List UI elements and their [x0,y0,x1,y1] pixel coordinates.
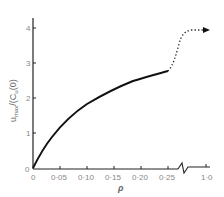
data-line-solid [33,71,168,168]
x-axis-break [178,163,210,173]
x-tick-label: 0·25 [159,173,176,182]
x-tick-label: 0·20 [132,173,149,182]
y-tick-label: 0 [25,165,30,174]
x-ticks [60,164,206,169]
x-tick-label: 0·05 [51,173,68,182]
arrow-head-icon [203,27,210,33]
x-tick-label: 0·10 [78,173,95,182]
x-axis-label: ρ [117,183,124,193]
x-tick-label: 1·0 [201,173,213,182]
y-tick-label: 4 [26,24,31,33]
x-tick-label: 0·15 [105,173,122,182]
y-axis-label: umax/(Cu(0) [8,79,19,122]
x-tick-label: 0 [31,173,36,182]
y-tick-label: 1 [26,129,31,138]
data-line-dotted [168,30,204,71]
y-tick-label: 3 [26,59,31,68]
y-tick-label: 2 [26,94,31,103]
chart: 0 1 2 3 4 0 0·05 0·10 0·15 0·20 0·25 1·0… [0,0,224,197]
